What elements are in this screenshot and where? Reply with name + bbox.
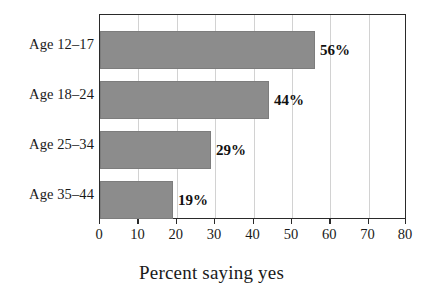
- bars-layer: 56% 44% 29% 19%: [100, 15, 405, 218]
- value-label-age-12-17: 56%: [320, 31, 350, 69]
- category-label-0: Age 12–17: [29, 36, 94, 52]
- xtick-label-30: 30: [194, 225, 234, 243]
- xtick-mark-40: [253, 219, 254, 224]
- category-label-1: Age 18–24: [29, 86, 94, 102]
- category-label-2: Age 25–34: [29, 136, 94, 152]
- xtick-mark-50: [291, 219, 292, 224]
- bar-chart: Age 12–17 Age 18–24 Age 25–34 Age 35–44 …: [0, 0, 423, 302]
- value-label-age-25-34: 29%: [216, 131, 246, 169]
- category-axis-labels: Age 12–17 Age 18–24 Age 25–34 Age 35–44: [0, 14, 99, 219]
- xtick-label-50: 50: [271, 225, 311, 243]
- xtick-mark-80: [405, 219, 406, 224]
- xtick-label-20: 20: [156, 225, 196, 243]
- xtick-label-80: 80: [385, 225, 423, 243]
- x-axis: 0 10 20 30 40 50 60 70 80: [99, 219, 406, 245]
- bar-age-25-34: [100, 131, 211, 169]
- xtick-label-10: 10: [117, 225, 157, 243]
- xtick-label-70: 70: [348, 225, 388, 243]
- xtick-mark-60: [329, 219, 330, 224]
- bar-age-18-24: [100, 81, 269, 119]
- xtick-mark-20: [176, 219, 177, 224]
- bar-age-12-17: [100, 31, 315, 69]
- xtick-mark-0: [99, 219, 100, 224]
- xtick-mark-10: [137, 219, 138, 224]
- bar-age-35-44: [100, 181, 173, 219]
- value-label-age-35-44: 19%: [178, 181, 208, 219]
- plot-area: 56% 44% 29% 19%: [99, 14, 406, 219]
- xtick-label-0: 0: [79, 225, 119, 243]
- category-label-3: Age 35–44: [29, 186, 94, 202]
- xtick-label-60: 60: [309, 225, 349, 243]
- value-label-age-18-24: 44%: [274, 81, 304, 119]
- x-axis-title: Percent saying yes: [0, 262, 423, 284]
- xtick-label-40: 40: [233, 225, 273, 243]
- xtick-mark-30: [214, 219, 215, 224]
- xtick-mark-70: [368, 219, 369, 224]
